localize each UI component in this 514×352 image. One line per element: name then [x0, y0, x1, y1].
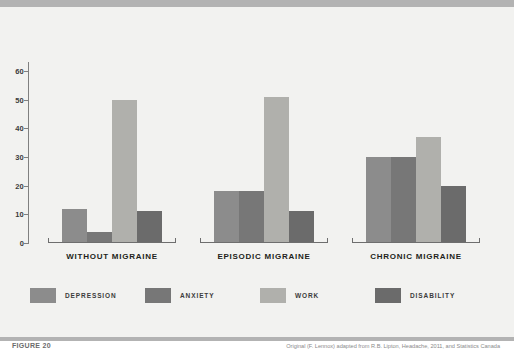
figure-footer: FIGURE 20 Original (F. Lennox) adapted f…: [0, 342, 514, 352]
legend-color-swatch: [145, 288, 171, 303]
bar: [62, 209, 87, 243]
group-baseline: [200, 242, 328, 243]
bar-group-bars: [48, 71, 176, 243]
y-axis-tick-label: 50: [15, 95, 24, 104]
footer-divider: [0, 337, 514, 341]
group-baseline: [48, 242, 176, 243]
bar: [214, 191, 239, 243]
legend-color-swatch: [375, 288, 401, 303]
group-baseline-cap-right: [175, 238, 176, 243]
y-axis-tick-mark: [24, 186, 29, 187]
legend-item: ANXIETY: [145, 288, 260, 303]
y-axis-tick-label: 20: [15, 181, 24, 190]
legend-label: DEPRESSION: [65, 292, 117, 299]
y-axis-tick-mark: [24, 100, 29, 101]
bar-group-bars: [200, 71, 328, 243]
legend-label: DISABILITY: [410, 292, 455, 299]
y-axis-tick-mark: [24, 214, 29, 215]
figure-credit-text: Original (F. Lennox) adapted from R.B. L…: [286, 343, 500, 349]
group-baseline-cap-left: [48, 238, 49, 243]
bar-group: WITHOUT MIGRAINE: [48, 62, 176, 243]
bar-group-label: CHRONIC MIGRAINE: [352, 252, 480, 261]
legend-label: WORK: [295, 292, 319, 299]
y-axis-tick-label: 10: [15, 210, 24, 219]
y-axis-tick-label: 30: [15, 153, 24, 162]
bar-group-label: WITHOUT MIGRAINE: [48, 252, 176, 261]
bar-group-bars: [352, 71, 480, 243]
group-baseline-cap-left: [200, 238, 201, 243]
bar: [239, 191, 264, 243]
figure-number-label: FIGURE 20: [12, 342, 51, 349]
bar-chart-plot-area: 0102030405060 WITHOUT MIGRAINEEPISODIC M…: [28, 62, 490, 252]
bar: [264, 97, 289, 243]
chart-legend: DEPRESSIONANXIETYWORKDISABILITY: [30, 288, 490, 303]
group-baseline-cap-right: [479, 238, 480, 243]
bar: [137, 211, 162, 243]
group-baseline-cap-right: [327, 238, 328, 243]
figure-panel: 0102030405060 WITHOUT MIGRAINEEPISODIC M…: [0, 7, 514, 337]
bar-group: CHRONIC MIGRAINE: [352, 62, 480, 243]
y-axis-tick-label: 60: [15, 67, 24, 76]
y-axis-line: [28, 62, 29, 243]
bar: [416, 137, 441, 243]
top-band: [0, 0, 514, 7]
y-axis-tick-mark: [24, 157, 29, 158]
bar: [441, 186, 466, 243]
bar: [366, 157, 391, 243]
legend-item: WORK: [260, 288, 375, 303]
figure-page: 0102030405060 WITHOUT MIGRAINEEPISODIC M…: [0, 0, 514, 352]
bar: [112, 100, 137, 243]
bar-group: EPISODIC MIGRAINE: [200, 62, 328, 243]
y-axis-tick-mark: [24, 71, 29, 72]
legend-item: DEPRESSION: [30, 288, 145, 303]
bar: [289, 211, 314, 243]
group-baseline: [352, 242, 480, 243]
y-axis-tick-mark: [24, 128, 29, 129]
bar-group-label: EPISODIC MIGRAINE: [200, 252, 328, 261]
y-axis-tick-label: 40: [15, 124, 24, 133]
legend-label: ANXIETY: [180, 292, 214, 299]
group-baseline-cap-left: [352, 238, 353, 243]
legend-item: DISABILITY: [375, 288, 490, 303]
y-axis-tick-label: 0: [20, 239, 24, 248]
legend-color-swatch: [260, 288, 286, 303]
y-axis-tick-mark: [24, 243, 29, 244]
bar: [391, 157, 416, 243]
legend-color-swatch: [30, 288, 56, 303]
